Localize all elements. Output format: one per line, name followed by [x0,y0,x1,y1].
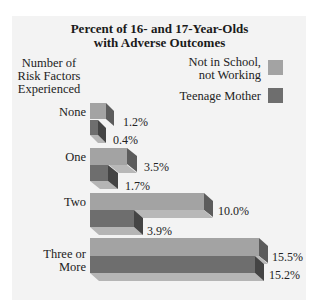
value-label-two-not-in-school: 10.0% [218,205,249,217]
category-label-three-or-more: Three or More [16,248,86,274]
bar-one-teenage-mother [90,165,108,181]
value-label-one-teenage-mother: 1.7% [125,180,150,192]
category-label-line: More [16,261,86,274]
bar-group-three-or-more [90,238,268,281]
value-label-one-not-in-school: 3.5% [144,161,169,173]
value-label-three-or-more-teenage-mother: 15.2% [269,269,300,281]
bar-two-not-in-school [90,193,204,210]
value-label-none-not-in-school: 1.2% [123,116,148,128]
bar-none-teenage-mother [90,120,98,135]
value-label-three-or-more-not-in-school: 15.5% [272,251,303,263]
category-label-none: None [16,106,86,119]
bar-one-not-in-school [90,148,127,165]
bar-three-or-more-teenage-mother [90,256,255,273]
bar-three-or-more-not-in-school [90,238,259,256]
category-label-two: Two [16,196,86,209]
category-label-one: One [16,151,86,164]
value-label-two-teenage-mother: 3.9% [147,225,172,237]
value-label-none-teenage-mother: 0.4% [113,134,138,146]
bar-group-none [90,103,114,143]
bar-two-teenage-mother [90,210,134,227]
bar-none-not-in-school [90,103,106,119]
